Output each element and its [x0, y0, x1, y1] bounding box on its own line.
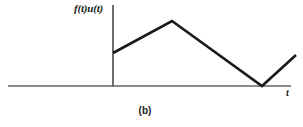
signal-curve	[113, 21, 296, 86]
figure-container: f(t)u(t) t (b)	[0, 0, 303, 127]
x-axis-label: t	[286, 88, 289, 98]
y-axis-label: f(t)u(t)	[74, 3, 103, 14]
figure-caption: (b)	[0, 106, 290, 116]
